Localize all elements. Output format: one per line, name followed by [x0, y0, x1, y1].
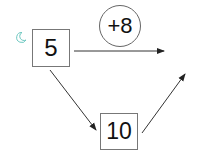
arrow-middle-to-result	[142, 74, 185, 133]
arrow-start-to-middle	[50, 70, 96, 130]
middle-number-box: 10	[100, 113, 138, 150]
operation-label: +8	[107, 13, 132, 39]
middle-number: 10	[106, 118, 132, 145]
start-number: 5	[44, 34, 57, 62]
operation-bubble: +8	[99, 5, 141, 47]
start-number-box: 5	[32, 29, 70, 67]
moon-icon	[15, 31, 27, 43]
result-blank[interactable]	[168, 32, 202, 70]
